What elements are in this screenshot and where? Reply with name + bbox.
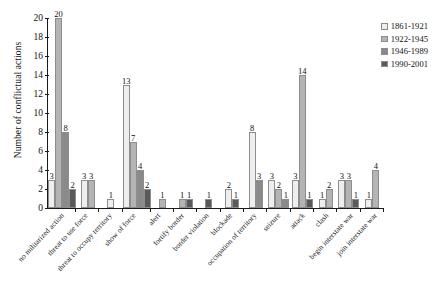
bar[interactable]: 2 [326, 189, 333, 208]
bar-value-label: 4 [138, 162, 142, 171]
bar-group: 13742 [123, 18, 151, 208]
legend-label: 1861-1921 [391, 20, 428, 33]
x-axis-labels: no militarized actionthreat to use force… [47, 209, 384, 305]
bar-value-label: 1 [307, 191, 311, 200]
bar-value-label: 3 [340, 172, 344, 181]
bar-value-label: 7 [131, 134, 135, 143]
bar[interactable]: 7 [130, 142, 137, 209]
x-label-cell: threat to occupy territory [95, 209, 119, 305]
bar-value-label: 3 [347, 172, 351, 181]
legend-item[interactable]: 1990-2001 [381, 58, 428, 71]
bar[interactable]: 1 [365, 199, 372, 209]
bar[interactable]: 1 [306, 199, 313, 209]
bar[interactable]: 2 [69, 189, 76, 208]
bar-group: 12 [314, 18, 337, 208]
legend-item[interactable]: 1946-1989 [381, 45, 428, 58]
x-tick-label: clash [313, 211, 330, 229]
bar-value-label: 8 [250, 124, 254, 133]
bar-value-label: 3 [49, 172, 53, 181]
legend-swatch-icon [381, 61, 388, 68]
bar-value-label: 2 [277, 181, 281, 190]
bar-group: 11 [174, 18, 197, 208]
bar-value-label: 1 [207, 191, 211, 200]
bar[interactable]: 2 [225, 189, 232, 208]
bar-group: 1 [99, 18, 122, 208]
bar[interactable]: 1 [232, 199, 239, 209]
bar[interactable]: 3 [48, 180, 55, 209]
bar[interactable]: 3 [268, 180, 275, 209]
bar-value-label: 14 [298, 67, 307, 76]
y-axis-title: Number of conflictual actions [13, 20, 23, 180]
x-label-cell: seizure [264, 209, 288, 305]
x-label-cell: occupation of territory [240, 209, 264, 305]
bar-group: 21 [221, 18, 244, 208]
bar[interactable]: 1 [186, 199, 193, 209]
legend-swatch-icon [381, 36, 388, 43]
bar[interactable]: 4 [137, 170, 144, 208]
bar-group: 1 [197, 18, 220, 208]
bar-value-label: 1 [160, 191, 164, 200]
bar[interactable]: 13 [123, 85, 130, 209]
bar-value-label: 3 [89, 172, 93, 181]
bar-value-label: 20 [54, 10, 63, 19]
bar-value-label: 3 [82, 172, 86, 181]
bar-value-label: 1 [234, 191, 238, 200]
bar[interactable]: 1 [179, 199, 186, 209]
bar[interactable]: 8 [249, 132, 256, 208]
bar-group: 83 [244, 18, 267, 208]
plot-area: 02468101214161820 3208233113742111121833… [47, 18, 384, 208]
bar-value-label: 1 [109, 191, 113, 200]
legend: 1861-19211922-19451946-19891990-2001 [381, 20, 428, 70]
bar-value-label: 1 [180, 191, 184, 200]
bar-value-label: 1 [187, 191, 191, 200]
bar-group: 3141 [291, 18, 314, 208]
bar-value-label: 2 [227, 181, 231, 190]
bar[interactable]: 1 [282, 199, 289, 209]
x-label-cell: fortify border [167, 209, 191, 305]
x-label-cell: alert [143, 209, 167, 305]
bar-value-label: 1 [320, 191, 324, 200]
bar[interactable]: 14 [299, 75, 306, 208]
x-tick-label: alert [146, 211, 162, 227]
bar[interactable]: 1 [107, 199, 114, 209]
legend-label: 1990-2001 [391, 58, 428, 71]
x-label-cell: show of force [119, 209, 143, 305]
bar-value-label: 4 [374, 162, 378, 171]
bar-group: 331 [337, 18, 360, 208]
bar[interactable]: 3 [256, 180, 263, 209]
legend-swatch-icon [381, 23, 388, 30]
x-tick-label: attack [287, 211, 306, 230]
x-tick-label: seizure [261, 211, 282, 233]
legend-label: 1922-1945 [391, 33, 428, 46]
legend-item[interactable]: 1861-1921 [381, 20, 428, 33]
bar[interactable]: 2 [144, 189, 151, 208]
x-label-cell: begin interstate war [336, 209, 360, 305]
bar-value-label: 1 [354, 191, 358, 200]
legend-swatch-icon [381, 48, 388, 55]
bar-value-label: 8 [63, 124, 67, 133]
bar[interactable]: 1 [352, 199, 359, 209]
bar[interactable]: 8 [62, 132, 69, 208]
legend-item[interactable]: 1922-1945 [381, 33, 428, 46]
bar[interactable]: 4 [372, 170, 379, 208]
bar[interactable]: 3 [292, 180, 299, 209]
bar-value-label: 2 [327, 181, 331, 190]
bar-group: 33 [76, 18, 99, 208]
bar-value-label: 3 [270, 172, 274, 181]
bar[interactable]: 3 [81, 180, 88, 209]
bar-value-label: 3 [293, 172, 297, 181]
bar[interactable]: 3 [88, 180, 95, 209]
legend-label: 1946-1989 [391, 45, 428, 58]
bar-value-label: 2 [145, 181, 149, 190]
bar-value-label: 1 [367, 191, 371, 200]
bar-value-label: 3 [257, 172, 261, 181]
bar[interactable]: 1 [205, 199, 212, 209]
bar[interactable]: 1 [159, 199, 166, 209]
bar[interactable]: 1 [319, 199, 326, 209]
bar[interactable]: 3 [338, 180, 345, 209]
bar[interactable]: 20 [55, 18, 62, 208]
bar-group: 321 [267, 18, 290, 208]
bar[interactable]: 2 [275, 189, 282, 208]
bar-value-label: 13 [122, 77, 131, 86]
bar[interactable]: 3 [345, 180, 352, 209]
